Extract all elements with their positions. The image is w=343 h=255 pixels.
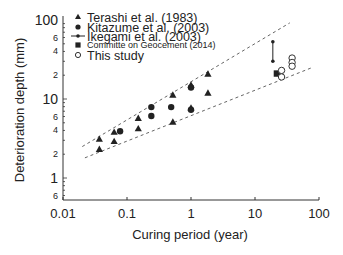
series-ikegami-et-al-2003 <box>271 40 275 63</box>
series-this-study <box>278 55 295 80</box>
circle-marker <box>188 107 194 113</box>
x-tick-label: 10 <box>248 206 262 221</box>
x-tick-label: 1 <box>187 206 194 221</box>
y-tick-label: 6 <box>53 112 58 122</box>
x-axis-label: Curing period (year) <box>110 227 270 242</box>
legend-dot-icon <box>76 34 80 38</box>
y-tick-label: 6 <box>53 33 58 43</box>
y-tick-label: 2 <box>53 70 58 80</box>
circle-marker <box>188 84 194 90</box>
y-tick-label: 100 <box>35 12 59 28</box>
legend-label: This study <box>87 49 145 63</box>
triangle-marker <box>96 135 103 141</box>
circle-marker <box>148 104 154 110</box>
open-circle-marker <box>278 67 284 73</box>
series-terashi-et-al-1983 <box>96 70 212 152</box>
legend-item: This study <box>75 49 144 63</box>
triangle-marker <box>96 146 103 152</box>
triangle-marker <box>75 14 81 19</box>
plot-area: 0.010.11101001006421064216 Terashi et al… <box>0 0 343 255</box>
open-circle-marker <box>289 63 295 69</box>
lower-bound-line <box>85 68 312 158</box>
open-circle-marker <box>75 52 80 57</box>
chart: 0.010.11101001006421064216 Terashi et al… <box>0 0 343 255</box>
y-tick-label: 2 <box>53 149 58 159</box>
open-circle-marker <box>278 74 284 80</box>
circle-marker <box>148 113 154 119</box>
range-end-marker <box>271 40 275 44</box>
range-end-marker <box>271 60 275 64</box>
x-tick-label: 0.1 <box>118 206 136 221</box>
triangle-marker <box>135 125 142 131</box>
y-tick-label: 6 <box>53 191 58 201</box>
series-kitazume-et-al-2003 <box>117 84 194 134</box>
legend: Terashi et al. (1983)Kitazume et al. (20… <box>71 11 216 63</box>
square-marker <box>75 42 80 47</box>
y-tick-label: 4 <box>53 125 58 135</box>
triangle-marker <box>111 138 118 144</box>
triangle-marker <box>111 128 118 134</box>
triangle-marker <box>135 114 142 120</box>
triangle-marker <box>204 70 211 76</box>
circle-marker <box>117 128 123 134</box>
y-tick-label: 10 <box>42 91 58 107</box>
y-axis-label: Deterioration depth (mm) <box>12 30 32 190</box>
y-tick-label: 4 <box>53 46 58 56</box>
circle-marker <box>168 104 174 110</box>
circle-marker <box>75 24 80 29</box>
x-tick-label: 100 <box>308 206 330 221</box>
triangle-marker <box>204 89 211 95</box>
x-tick-label: 0.01 <box>50 206 75 221</box>
y-tick-label: 1 <box>50 170 58 186</box>
